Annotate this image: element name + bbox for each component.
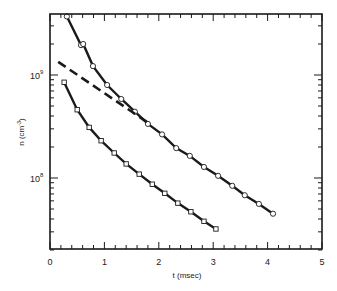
square-marker (202, 219, 206, 223)
circle-marker (159, 132, 164, 137)
circle-marker (174, 146, 179, 151)
chart-canvas: 0 1 2 3 4 5 t (msec) 10 9 10 8 n (cm-3) (0, 0, 337, 291)
circle-marker (270, 211, 275, 216)
svg-text:n (cm-3): n (cm-3) (16, 118, 26, 146)
square-marker (189, 210, 193, 214)
square-marker (62, 80, 66, 84)
y-tick-label-1e8: 10 8 (30, 172, 44, 184)
x-tick-label-5: 5 (319, 257, 324, 267)
y-tick-label-1e9-base: 10 (30, 71, 40, 81)
circle-marker (187, 153, 192, 158)
circle-marker (230, 183, 235, 188)
square-marker (214, 227, 218, 231)
x-tick-label-3: 3 (211, 257, 216, 267)
y-tick-label-1e9-exp: 9 (40, 69, 44, 75)
series-line (64, 82, 216, 229)
y-tick-label-1e8-base: 10 (30, 174, 40, 184)
circle-marker (105, 82, 110, 87)
plot-frame (50, 14, 322, 249)
series-1 (62, 80, 218, 231)
square-marker (163, 191, 167, 195)
square-marker (99, 139, 103, 143)
square-marker (176, 201, 180, 205)
square-marker (150, 182, 154, 186)
series-2 (58, 62, 150, 124)
x-tick-label-2: 2 (156, 257, 161, 267)
square-marker (87, 125, 91, 129)
y-axis-title-close: ) (17, 118, 26, 121)
circle-marker (90, 64, 95, 69)
plot-area (58, 14, 275, 231)
x-tick-label-0: 0 (47, 257, 52, 267)
y-tick-label-1e8-exp: 8 (40, 172, 44, 178)
series-line (67, 17, 273, 214)
square-marker (137, 172, 141, 176)
square-marker (124, 162, 128, 166)
y-tick-label-1e9: 10 9 (30, 69, 44, 81)
circle-marker (119, 96, 124, 101)
series-line (58, 62, 150, 124)
axes (50, 14, 322, 250)
series-0 (64, 14, 275, 216)
circle-marker (215, 173, 220, 178)
y-axis-title-base: n (cm (17, 125, 26, 145)
square-marker (112, 151, 116, 155)
circle-marker (201, 164, 206, 169)
x-tick-label-4: 4 (265, 257, 270, 267)
circle-marker (81, 41, 86, 46)
x-axis-title: t (msec) (173, 271, 202, 280)
square-marker (75, 108, 79, 112)
circle-marker (242, 193, 247, 198)
circle-marker (256, 201, 261, 206)
y-axis-title: n (cm-3) (16, 118, 26, 146)
x-tick-label-1: 1 (102, 257, 107, 267)
